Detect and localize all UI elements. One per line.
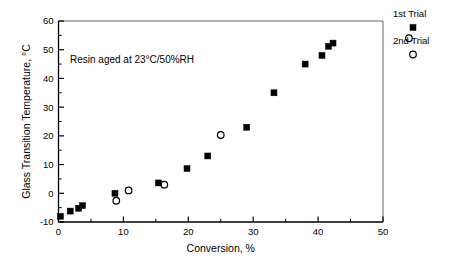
data-point — [205, 153, 211, 159]
y-tick-label: 60 — [43, 15, 54, 26]
x-axis-title: Conversion, % — [187, 242, 255, 254]
series-1st-trial — [57, 40, 336, 219]
x-tick-label: 20 — [183, 226, 194, 237]
x-tick-label: 30 — [248, 226, 259, 237]
data-point — [217, 132, 224, 139]
data-point — [271, 90, 277, 96]
data-point — [80, 203, 86, 209]
data-point — [112, 190, 118, 196]
y-tick-label: 20 — [43, 130, 54, 141]
data-point — [161, 181, 168, 188]
legend-marker — [410, 25, 416, 31]
y-tick-label: 0 — [48, 188, 53, 199]
legend-marker — [410, 51, 417, 58]
chart-annotation: Resin aged at 23°C/50%RH — [70, 54, 194, 65]
data-point — [113, 197, 120, 204]
y-axis-title: Glass Transition Temperature, °C — [20, 44, 32, 199]
x-tick-label: 0 — [56, 226, 61, 237]
data-point — [57, 213, 63, 219]
x-tick-label: 50 — [378, 226, 389, 237]
legend-label: 1st Trial — [393, 8, 426, 19]
data-point — [125, 187, 132, 194]
x-tick-label: 40 — [313, 226, 324, 237]
data-point — [330, 40, 336, 46]
plot-frame — [59, 21, 384, 222]
y-tick-label: 30 — [43, 102, 54, 113]
x-axis: 01020304050 — [56, 217, 388, 237]
y-tick-label: 50 — [43, 44, 54, 55]
x-tick-label: 10 — [118, 226, 129, 237]
chart-canvas: -10010203040506001020304050Conversion, %… — [0, 0, 454, 273]
data-point — [319, 52, 325, 58]
y-tick-label: 40 — [43, 73, 54, 84]
data-point — [67, 208, 73, 214]
data-point — [244, 124, 250, 130]
y-tick-label: -10 — [40, 216, 54, 227]
y-tick-label: 10 — [43, 159, 54, 170]
data-point — [302, 61, 308, 67]
scatter-chart-figure: -10010203040506001020304050Conversion, %… — [0, 0, 454, 273]
y-axis: -100102030405060 — [40, 15, 64, 227]
chart-legend: 1st Trial2nd Trial — [393, 8, 429, 58]
legend-label: 2nd Trial — [393, 35, 429, 46]
data-point — [184, 166, 190, 172]
